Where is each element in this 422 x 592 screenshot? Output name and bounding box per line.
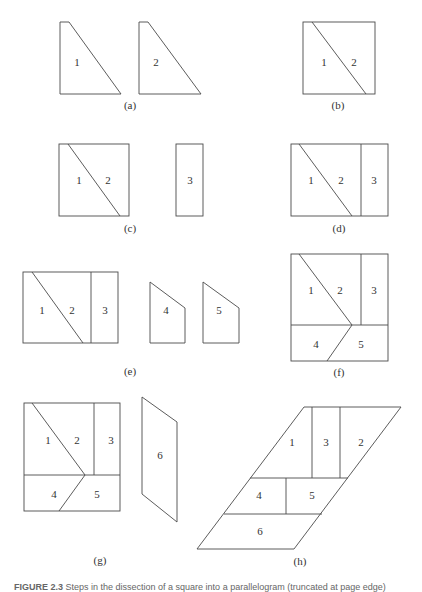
panel-c: 1 2 3 (c)	[59, 144, 203, 235]
panel-label: (d)	[333, 222, 346, 235]
piece-label: 3	[323, 436, 329, 448]
piece-label: 4	[163, 304, 169, 316]
piece-label: 3	[108, 434, 114, 446]
piece-label: 1	[45, 434, 51, 446]
piece-label: 1	[308, 284, 314, 296]
piece-label: 1	[308, 174, 314, 186]
panel-label: (g)	[94, 554, 107, 567]
piece-label: 1	[39, 304, 45, 316]
panel-label: (h)	[294, 555, 307, 568]
panel-b: 1 2 (b)	[303, 22, 375, 112]
piece-label: 5	[94, 488, 100, 500]
piece-label: 2	[337, 284, 343, 296]
piece-label: 2	[69, 304, 75, 316]
square-outline	[291, 254, 388, 361]
piece-label: 1	[289, 436, 295, 448]
panel-h: 1 3 2 4 5 6 (h)	[197, 407, 401, 568]
piece-label: 4	[313, 338, 319, 350]
piece-label: 6	[157, 449, 163, 461]
piece-label: 1	[74, 56, 80, 68]
piece-label: 2	[153, 56, 159, 68]
piece-1-trapezoid	[60, 22, 121, 94]
panel-d: 1 2 3 (d)	[291, 144, 388, 235]
panel-e: 1 2 3 4 5 (e)	[23, 272, 239, 378]
figure-caption: FIGURE 2.3 Steps in the dissection of a …	[14, 582, 386, 592]
panel-label: (f)	[334, 366, 345, 379]
piece-label: 1	[321, 56, 327, 68]
piece-label: 5	[358, 338, 364, 350]
piece-label: 5	[216, 304, 222, 316]
panel-g: 1 2 3 4 5 6 (g)	[24, 397, 177, 567]
piece-label: 3	[371, 174, 377, 186]
slanted-cut	[327, 325, 352, 361]
slanted-cut	[59, 475, 85, 511]
panel-label: (a)	[124, 99, 137, 112]
piece-label: 1	[76, 174, 82, 186]
caption-text: Steps in the dissection of a square into…	[66, 582, 386, 592]
panel-label: (b)	[332, 99, 345, 112]
piece-label: 4	[51, 488, 57, 500]
diagonal-cut	[299, 144, 352, 216]
piece-label: 4	[256, 489, 262, 501]
piece-label: 5	[309, 489, 315, 501]
piece-label: 2	[338, 174, 344, 186]
piece-label: 3	[371, 284, 377, 296]
piece-label: 3	[102, 304, 108, 316]
diagonal-cut	[312, 22, 366, 94]
panel-label: (e)	[124, 365, 137, 378]
piece-label: 6	[257, 525, 263, 537]
piece-label: 3	[187, 174, 193, 186]
panel-a: 1 2 (a)	[60, 22, 201, 112]
panel-f: 1 2 3 4 5 (f)	[291, 254, 388, 379]
piece-2-trapezoid	[139, 22, 201, 94]
diagonal-cut	[299, 254, 352, 325]
piece-label: 2	[358, 436, 364, 448]
piece-label: 2	[105, 174, 111, 186]
panel-label: (c)	[124, 222, 137, 235]
piece-label: 2	[74, 434, 80, 446]
caption-prefix: FIGURE 2.3	[14, 582, 63, 592]
piece-label: 2	[351, 56, 357, 68]
